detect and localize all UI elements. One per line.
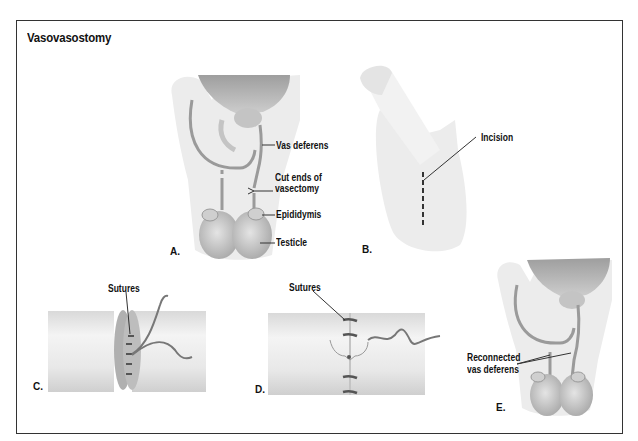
- label-testicle: Testicle: [276, 237, 307, 249]
- panel-d-vas-tube-sutured: [268, 291, 440, 395]
- panel-a-anatomy: [171, 75, 300, 260]
- label-sutures-c: Sutures: [108, 283, 140, 295]
- panel-e-anatomy: [497, 258, 612, 416]
- label-vas-deferens: Vas deferens: [276, 140, 328, 152]
- panel-letter-b: B.: [362, 244, 372, 255]
- panel-letter-e: E.: [496, 402, 505, 413]
- label-sutures-d: Sutures: [289, 282, 321, 294]
- panel-b-anatomy: [360, 66, 476, 252]
- label-incision: Incision: [481, 132, 513, 144]
- panel-letter-c: C.: [33, 381, 43, 392]
- panel-letter-a: A.: [170, 246, 180, 257]
- panel-c-vas-tube-cut: [48, 292, 206, 392]
- panel-letter-d: D.: [255, 384, 265, 395]
- label-reconnected-line2: vas deferens: [467, 364, 519, 376]
- label-epididymis: Epididymis: [276, 209, 321, 221]
- label-cut-ends-line2: vasectomy: [275, 183, 319, 195]
- label-reconnected-line1: Reconnected: [467, 352, 520, 364]
